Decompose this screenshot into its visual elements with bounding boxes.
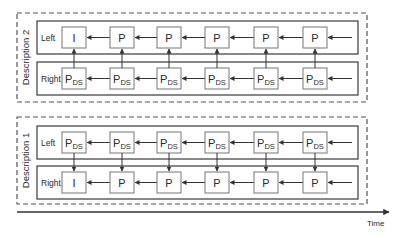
frame-box-pds: PDS (157, 132, 181, 153)
view-row-right: RightPDSPDSPDSPDSPDSPDS (37, 62, 358, 95)
frame-box-pds: PDS (254, 132, 278, 153)
frame-box-pds: PDS (110, 68, 134, 89)
frame-box-pds: PDS (303, 132, 327, 153)
frame-box-i: I (62, 172, 86, 193)
frame-type-label: P (165, 32, 172, 44)
description-block-1: Description 1LeftPDSPDSPDSPDSPDSPDSRight… (17, 117, 367, 204)
frame-type-label: P (311, 32, 318, 44)
frame-box-pds: PDS (62, 132, 86, 153)
frame-type-label: P (262, 32, 269, 44)
frame-type-label: P (262, 177, 269, 189)
frame-type-label: P (118, 177, 125, 189)
frame-type-label: P (118, 32, 125, 44)
time-axis: Time (17, 212, 389, 228)
frame-type-label: P (213, 32, 220, 44)
frame-box-p: P (303, 27, 327, 48)
frame-box-pds: PDS (62, 68, 86, 89)
row-label: Left (41, 33, 56, 43)
frame-box-p: P (110, 27, 134, 48)
description-label: Description 2 (20, 30, 31, 85)
view-row-left: LeftIPPPPP (37, 21, 358, 54)
frame-type-label: I (72, 32, 75, 44)
row-label: Left (41, 138, 56, 148)
frame-box-p: P (205, 172, 229, 193)
frame-box-pds: PDS (110, 132, 134, 153)
frame-box-pds: PDS (254, 68, 278, 89)
diagram-canvas: Description 2LeftIPPPPPRightPDSPDSPDSPDS… (0, 0, 404, 238)
frame-box-p: P (110, 172, 134, 193)
description-label: Description 1 (20, 133, 31, 188)
time-axis-label: Time (367, 219, 385, 228)
frame-box-p: P (254, 172, 278, 193)
frame-box-pds: PDS (205, 132, 229, 153)
multiview-coding-diagram: Description 2LeftIPPPPPRightPDSPDSPDSPDS… (0, 0, 404, 238)
frame-box-p: P (303, 172, 327, 193)
frame-box-p: P (157, 27, 181, 48)
frame-box-i: I (62, 27, 86, 48)
frame-type-label: P (213, 177, 220, 189)
frame-box-p: P (254, 27, 278, 48)
frame-box-p: P (157, 172, 181, 193)
frame-type-label: P (165, 177, 172, 189)
view-row-right: RightIPPPPP (37, 166, 358, 199)
row-label: Right (41, 74, 61, 84)
frame-box-pds: PDS (157, 68, 181, 89)
frame-type-label: P (311, 177, 318, 189)
frame-box-pds: PDS (303, 68, 327, 89)
frame-type-label: I (72, 177, 75, 189)
frame-box-p: P (205, 27, 229, 48)
frame-box-pds: PDS (205, 68, 229, 89)
view-row-left: LeftPDSPDSPDSPDSPDSPDS (37, 126, 358, 159)
description-block-2: Description 2LeftIPPPPPRightPDSPDSPDSPDS… (17, 13, 367, 102)
row-label: Right (41, 178, 61, 188)
